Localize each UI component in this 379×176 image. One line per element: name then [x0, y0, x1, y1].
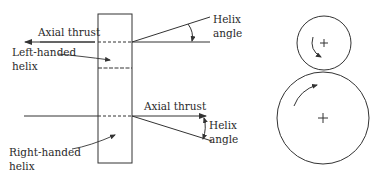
helix-angle-top-label-line1: Helix: [213, 13, 241, 25]
left-handed-label-line1: Left-handed: [12, 46, 76, 58]
axial-thrust-bottom-label: Axial thrust: [144, 100, 206, 112]
gear-pair-end-view: [277, 16, 369, 164]
gear-face-stack: [98, 14, 132, 163]
helix-top-incline-line: [132, 17, 210, 42]
helix-angle-top-label-line2: angle: [213, 27, 242, 39]
helix-angle-bottom-arc: [203, 118, 205, 139]
helical-gear-diagram: Axial thrust Left-handed helix Helix ang…: [0, 0, 379, 176]
helix-angle-bottom-label-line2: angle: [209, 133, 238, 145]
small-gear-rotation-arrow: [312, 37, 321, 57]
right-handed-label-line1: Right-handed: [9, 146, 81, 158]
helix-angle-top-arc: [188, 24, 193, 41]
gear-face-outline: [98, 14, 132, 163]
left-handed-label-line2: helix: [12, 60, 38, 72]
large-gear-rotation-arrow: [294, 85, 317, 106]
helix-bottom-incline-line: [132, 116, 212, 141]
right-handed-label-line2: helix: [9, 160, 35, 172]
helix-angle-bottom-label-line1: Helix: [209, 119, 237, 131]
axial-thrust-top-label: Axial thrust: [38, 26, 100, 38]
